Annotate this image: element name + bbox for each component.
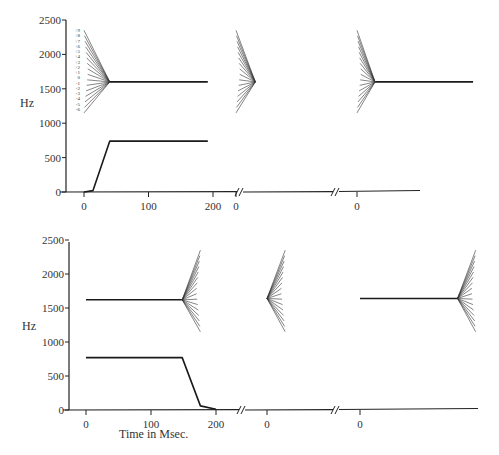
f2-transition-line (182, 300, 200, 327)
axis-break-mark (241, 406, 245, 414)
transition-value-label: +2 (75, 65, 81, 70)
f2-transition-line (458, 261, 475, 298)
top-panel: 05001000150020002500 Hz 010020000 +9+8+7… (20, 14, 473, 212)
bottom-f2-transition-fans (182, 250, 476, 332)
axis-break-mark (335, 188, 339, 196)
x-tick-label: 0 (81, 200, 87, 212)
formant-transition-figure: 05001000150020002500 Hz 010020000 +9+8+7… (0, 0, 499, 455)
transition-value-label: -2 (76, 86, 81, 91)
x-tick-label: 0 (83, 418, 89, 430)
f2-transition-line (182, 267, 199, 300)
transition-value-label: +1 (75, 70, 81, 75)
y-tick-label: 1500 (42, 302, 65, 314)
x-tick-label: 0 (233, 200, 239, 212)
y-tick-label: 500 (48, 370, 65, 382)
f1-trajectory (84, 141, 208, 192)
top-x-axis: 010020000 (60, 188, 420, 212)
f2-transition-line (267, 298, 283, 310)
x-tick-label: 100 (140, 200, 157, 212)
f2-transition-line (182, 300, 198, 310)
f2-transition-line (86, 52, 110, 82)
transition-value-label: -1 (76, 81, 81, 86)
f1-trajectory (86, 358, 216, 410)
f2-transition-line (87, 63, 110, 82)
transition-value-label: -4 (76, 96, 81, 101)
x-tick-label: 200 (208, 418, 225, 430)
x-tick-label: 200 (205, 200, 222, 212)
transition-value-label: -5 (76, 102, 81, 107)
top-f1-line (84, 141, 208, 192)
f2-transition-line (267, 272, 283, 299)
f2-transition-line (458, 277, 474, 298)
top-y-axis-title: Hz (20, 96, 34, 110)
f2-transition-line (182, 272, 198, 300)
bottom-panel: 05001000150020002500 Hz 010020000 Time i… (22, 234, 478, 441)
y-tick-label: 500 (45, 152, 62, 164)
f2-transition-line (85, 36, 110, 82)
f2-transition-line (267, 298, 285, 331)
top-y-axis: 05001000150020002500 (39, 14, 66, 198)
transition-labels: +9+8+7+6+5+4+3+2+10-1-2-3-4-5-6 (75, 28, 81, 112)
bottom-f1-line (86, 358, 216, 410)
x-tick-label: 0 (354, 200, 360, 212)
transition-value-label: +5 (75, 49, 81, 54)
f2-transition-line (182, 299, 197, 300)
transition-value-label: +6 (75, 44, 81, 49)
f2-transition-line (458, 272, 474, 299)
x-axis-line (339, 191, 420, 192)
f2-transition-line (458, 298, 476, 326)
x-tick-label: 0 (264, 418, 270, 430)
transition-value-label: +9 (75, 28, 81, 33)
f2-transition-line (87, 58, 110, 82)
f2-transition-line (182, 300, 199, 321)
axis-break-mark (335, 406, 339, 414)
f2-transition-line (85, 41, 110, 82)
f2-transition-line (458, 298, 475, 315)
f2-transition-line (86, 47, 110, 82)
x-tick-label: 0 (357, 418, 363, 430)
bottom-y-axis: 05001000150020002500 (42, 234, 69, 416)
f2-transition-line (267, 298, 284, 315)
top-f2-transition-fans (84, 30, 375, 113)
x-axis-line (339, 409, 478, 410)
bottom-y-axis-title: Hz (22, 319, 36, 333)
y-tick-label: 1500 (39, 83, 62, 95)
transition-value-label: +4 (75, 54, 81, 59)
transition-value-label: -3 (76, 91, 81, 96)
f2-transition-line (267, 277, 283, 298)
y-tick-label: 1000 (39, 117, 62, 129)
f2-transition-line (267, 261, 284, 298)
f2-transition-line (458, 298, 474, 310)
f2-transition-line (237, 41, 255, 82)
y-tick-label: 2500 (42, 234, 65, 246)
transition-value-label: +3 (75, 60, 81, 65)
y-tick-label: 2500 (39, 14, 62, 26)
axis-break-mark (239, 188, 243, 196)
transition-value-label: +7 (75, 39, 81, 44)
y-tick-label: 2000 (39, 48, 62, 60)
transition-value-label: 0 (78, 75, 81, 80)
f2-transition-line (458, 298, 476, 331)
y-tick-label: 2000 (42, 268, 65, 280)
f2-transition-line (357, 82, 375, 113)
transition-value-label: -6 (76, 107, 81, 112)
x-axis-title: Time in Msec. (119, 427, 188, 441)
f2-transition-line (236, 82, 255, 113)
y-tick-label: 1000 (42, 336, 65, 348)
transition-value-label: +8 (75, 33, 81, 38)
f2-transition-line (267, 298, 285, 326)
